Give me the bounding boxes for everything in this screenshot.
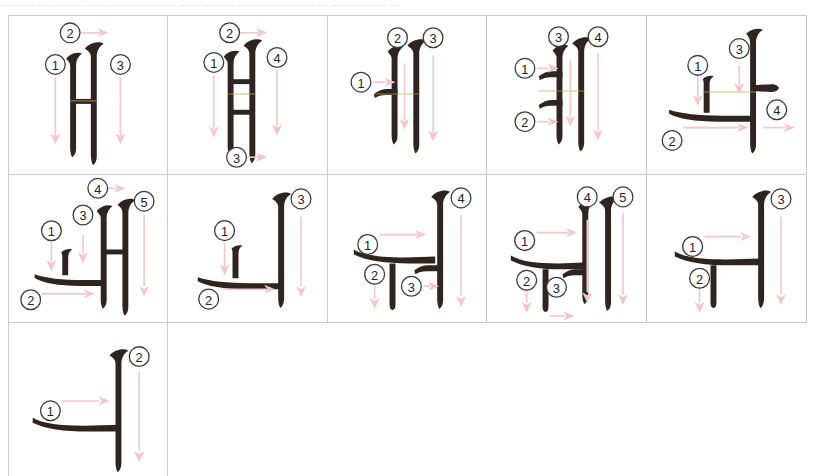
svg-text:4: 4 (773, 103, 780, 118)
stroke-number-badge: 1 (42, 221, 62, 241)
svg-text:5: 5 (620, 190, 627, 205)
svg-text:2: 2 (669, 134, 676, 149)
svg-text:1: 1 (357, 76, 364, 91)
svg-text:3: 3 (555, 30, 562, 45)
stroke-order-grid: 1 2 3 (8, 15, 807, 476)
svg-text:2: 2 (394, 31, 401, 46)
stroke-number-badge: 3 (291, 189, 311, 209)
top-caption-fragment: ― ―― ― ――― ―― ― ―――― ― ―― ――― ― ―― ―――― … (0, 0, 815, 9)
stroke-number-badge: 2 (199, 289, 219, 309)
stroke-number-badge: 2 (517, 270, 537, 290)
stroke-number-badge: 2 (387, 28, 407, 48)
stroke-diagram-cell-7[interactable]: 1 2 3 (168, 175, 328, 323)
svg-text:3: 3 (736, 42, 743, 57)
stroke-number-badge: 4 (267, 48, 287, 68)
svg-text:4: 4 (457, 191, 464, 206)
stroke-number-badge: 3 (771, 189, 791, 209)
stroke-order-chart-page: ― ―― ― ――― ―― ― ―――― ― ―― ――― ― ―― ―――― … (0, 0, 815, 476)
stroke-number-badge: 4 (451, 188, 471, 208)
stroke-number-badge: 2 (129, 347, 149, 367)
svg-text:2: 2 (67, 26, 74, 41)
svg-text:3: 3 (117, 58, 124, 73)
stroke-number-badge: 1 (45, 55, 65, 75)
svg-text:4: 4 (595, 30, 602, 45)
svg-text:4: 4 (273, 51, 280, 66)
svg-text:1: 1 (52, 58, 59, 73)
stroke-diagram-cell-5[interactable]: 1 2 3 4 (647, 15, 807, 175)
svg-text:2: 2 (696, 272, 703, 287)
stroke-diagram-cell-11[interactable]: 1 2 (8, 323, 168, 476)
svg-text:3: 3 (297, 192, 304, 207)
stroke-number-badge: 1 (357, 235, 377, 255)
stroke-diagram-cell-1[interactable]: 1 2 3 (8, 15, 168, 175)
svg-text:3: 3 (79, 208, 86, 223)
stroke-diagram-cell-6[interactable]: 1 2 3 4 5 (8, 175, 168, 323)
stroke-number-badge: 2 (662, 131, 682, 151)
svg-text:1: 1 (47, 404, 54, 419)
stroke-number-badge: 4 (767, 100, 787, 120)
empty-cell (487, 323, 647, 476)
stroke-number-badge: 3 (730, 39, 750, 59)
stroke-number-badge: 2 (21, 290, 41, 310)
stroke-diagram-cell-2[interactable]: 1 2 3 4 (168, 15, 328, 175)
stroke-number-badge: 1 (214, 221, 234, 241)
stroke-number-badge: 2 (690, 268, 710, 288)
svg-text:1: 1 (522, 62, 529, 77)
stroke-number-badge: 1 (683, 237, 703, 257)
svg-text:1: 1 (210, 56, 217, 71)
stroke-number-badge: 1 (515, 58, 535, 78)
svg-text:1: 1 (48, 224, 55, 239)
svg-text:3: 3 (407, 280, 414, 295)
stroke-number-badge: 1 (204, 53, 224, 73)
stroke-number-badge: 5 (134, 191, 154, 211)
svg-text:1: 1 (694, 59, 701, 74)
stroke-number-badge: 3 (401, 276, 421, 296)
svg-text:3: 3 (778, 192, 785, 207)
empty-cell (647, 323, 807, 476)
stroke-number-badge: 2 (60, 23, 80, 43)
grid-row: 1 2 3 (8, 15, 807, 175)
stroke-number-badge: 4 (88, 178, 108, 198)
svg-text:3: 3 (553, 281, 560, 296)
empty-cell (168, 323, 328, 476)
stroke-number-badge: 3 (111, 55, 131, 75)
grid-row: 1 2 3 4 5 (8, 175, 807, 323)
stroke-diagram-cell-10[interactable]: 1 2 3 (647, 175, 807, 323)
stroke-number-badge: 2 (515, 112, 535, 132)
stroke-number-badge: 1 (515, 231, 535, 251)
stroke-number-badge: 3 (547, 277, 567, 297)
stroke-diagram-cell-9[interactable]: 1 2 3 4 5 (487, 175, 647, 323)
svg-text:1: 1 (522, 234, 529, 249)
svg-text:2: 2 (226, 26, 233, 41)
stroke-number-badge: 3 (549, 27, 569, 47)
stroke-diagram-cell-4[interactable]: 1 2 3 4 (487, 15, 647, 175)
stroke-diagram-cell-3[interactable]: 1 2 3 (328, 15, 488, 175)
svg-text:2: 2 (27, 293, 34, 308)
svg-text:4: 4 (584, 190, 591, 205)
svg-text:1: 1 (221, 224, 228, 239)
svg-text:3: 3 (233, 151, 240, 166)
stroke-number-badge: 2 (364, 264, 384, 284)
svg-text:2: 2 (136, 350, 143, 365)
stroke-number-badge: 4 (589, 27, 609, 47)
svg-text:5: 5 (141, 195, 148, 210)
stroke-number-badge: 2 (220, 23, 240, 43)
stroke-number-badge: 1 (351, 72, 371, 92)
stroke-number-badge: 4 (578, 187, 598, 207)
stroke-number-badge: 5 (613, 187, 633, 207)
svg-text:1: 1 (689, 240, 696, 255)
svg-text:4: 4 (94, 182, 101, 197)
svg-text:2: 2 (522, 115, 529, 130)
empty-cell (328, 323, 488, 476)
stroke-number-badge: 1 (688, 56, 708, 76)
stroke-number-badge: 3 (423, 28, 443, 48)
stroke-number-badge: 1 (41, 401, 61, 421)
svg-text:2: 2 (371, 268, 378, 283)
svg-text:1: 1 (364, 238, 371, 253)
svg-text:3: 3 (429, 31, 436, 46)
stroke-number-badge: 3 (226, 147, 246, 167)
stroke-number-badge: 3 (73, 205, 93, 225)
stroke-diagram-cell-8[interactable]: 1 2 3 4 (328, 175, 488, 323)
svg-text:2: 2 (205, 293, 212, 308)
grid-row: 1 2 (8, 323, 807, 476)
